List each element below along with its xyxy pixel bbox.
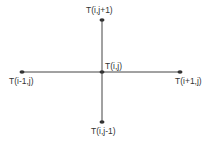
node-top — [100, 18, 105, 22]
label-top: T(i,j+1) — [86, 6, 113, 15]
node-right — [178, 70, 183, 74]
node-left — [20, 70, 25, 74]
node-center — [100, 70, 105, 74]
stencil-graphic — [0, 0, 215, 144]
node-bottom — [100, 120, 105, 124]
label-center: T(i,j) — [105, 62, 122, 71]
label-bottom: T(i,j-1) — [91, 127, 116, 136]
label-left: T(i-1,j) — [9, 77, 34, 86]
label-right: T(i+1,j) — [175, 77, 202, 86]
